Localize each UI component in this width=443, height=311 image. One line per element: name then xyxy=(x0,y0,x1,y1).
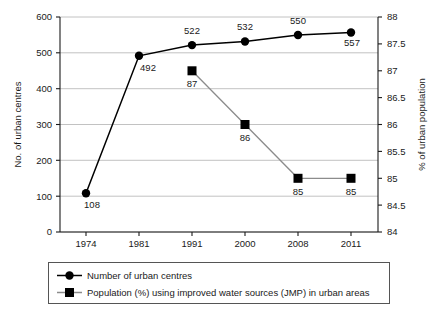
legend-item-population-water-sources[interactable]: Population (%) using improved water sour… xyxy=(57,287,370,298)
right-axis-title: % of urban population xyxy=(416,78,427,170)
right-tick-label: 85.5 xyxy=(387,146,406,157)
right-tick-label: 87.5 xyxy=(387,38,406,49)
series-population-marker xyxy=(241,120,250,129)
data-label: 550 xyxy=(290,15,306,26)
series-urban-centres-marker xyxy=(82,189,90,197)
right-tick-label: 84 xyxy=(387,226,398,237)
x-tick-label: 2011 xyxy=(341,238,361,249)
data-label: 108 xyxy=(84,199,100,210)
x-tick-label: 1974 xyxy=(75,238,96,249)
x-tick-label: 2000 xyxy=(234,238,255,249)
data-label: 492 xyxy=(140,62,156,73)
right-tick-label: 86.5 xyxy=(387,92,406,103)
data-label: 85 xyxy=(346,186,357,197)
series-urban-centres-marker xyxy=(241,37,249,45)
series-population-marker xyxy=(188,66,197,75)
chart-container: 600 500 400 300 200 100 0 No. of urban c… xyxy=(0,0,443,311)
chart-background xyxy=(0,0,443,311)
data-label: 522 xyxy=(184,25,200,36)
x-tick-label: 1991 xyxy=(181,238,202,249)
left-tick-label: 400 xyxy=(36,83,52,94)
left-tick-label: 0 xyxy=(47,226,52,237)
circle-marker-icon xyxy=(65,271,73,279)
left-tick-label: 200 xyxy=(36,155,52,166)
data-label: 532 xyxy=(237,21,253,32)
legend-label: Population (%) using improved water sour… xyxy=(87,287,370,298)
right-tick-label: 88 xyxy=(387,11,398,22)
right-tick-label: 86 xyxy=(387,119,398,130)
series-urban-centres-marker xyxy=(188,41,196,49)
series-population-marker xyxy=(294,174,303,183)
series-urban-centres-marker xyxy=(135,52,143,60)
left-tick-label: 100 xyxy=(36,191,52,202)
series-urban-centres-marker xyxy=(294,31,302,39)
data-label: 86 xyxy=(240,132,251,143)
dual-axis-line-chart: 600 500 400 300 200 100 0 No. of urban c… xyxy=(0,0,443,311)
left-tick-label: 600 xyxy=(36,11,52,22)
square-marker-icon xyxy=(65,288,74,297)
right-tick-label: 85 xyxy=(387,173,398,184)
series-urban-centres-marker xyxy=(347,28,355,36)
left-axis-title: No. of urban centres xyxy=(12,81,23,167)
x-tick-label: 1981 xyxy=(128,238,149,249)
data-label: 87 xyxy=(187,78,198,89)
left-tick-label: 500 xyxy=(36,47,52,58)
right-tick-label: 84.5 xyxy=(387,200,406,211)
data-label: 557 xyxy=(344,37,360,48)
x-tick-label: 2008 xyxy=(287,238,308,249)
series-population-marker xyxy=(347,174,356,183)
left-tick-label: 300 xyxy=(36,119,52,130)
right-tick-label: 87 xyxy=(387,65,398,76)
data-label: 85 xyxy=(293,186,304,197)
legend-label: Number of urban centres xyxy=(87,270,192,281)
